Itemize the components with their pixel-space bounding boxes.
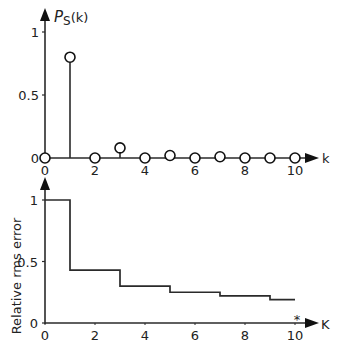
y-tick-label: 0.5 (18, 88, 39, 103)
y-tick-label: 0 (30, 316, 38, 331)
x-tick-label: 2 (91, 328, 99, 343)
stem-marker (265, 153, 275, 163)
stem-marker (190, 153, 200, 163)
x-tick-label: 0 (41, 328, 49, 343)
x-tick-label: 10 (287, 328, 304, 343)
y-tick-label: 1 (30, 193, 38, 208)
stem-marker (240, 153, 250, 163)
bottom-step-plot: 00.510246810Relative rms error*K (9, 177, 330, 343)
x-tick-label: 10 (287, 163, 304, 178)
x-tick-label: 4 (141, 328, 149, 343)
y-tick-label: 1 (31, 25, 39, 40)
x-tick-label: 8 (241, 328, 249, 343)
top-stem-plot: 00.510246810PS(k)k (18, 8, 330, 178)
y-axis-label: PS(k) (54, 8, 88, 28)
x-tick-label: 4 (141, 163, 149, 178)
y-axis-label: Relative rms error (9, 217, 24, 334)
stem-marker (165, 150, 175, 160)
x-tick-label: 6 (191, 328, 199, 343)
stem-marker (65, 52, 75, 62)
stem-marker (140, 153, 150, 163)
stem-marker (215, 152, 225, 162)
chart-canvas: 00.510246810PS(k)k 00.510246810Relative … (0, 0, 340, 356)
y-axis-arrow-icon (40, 8, 50, 21)
x-axis-label: k (322, 151, 330, 166)
x-tick-label: 8 (241, 163, 249, 178)
x-asterisk-marker: * (294, 312, 301, 327)
x-axis-arrow-icon (305, 153, 319, 163)
stem-marker (290, 153, 300, 163)
y-tick-label: 0 (31, 151, 39, 166)
stem-marker (115, 143, 125, 153)
x-tick-label: 0 (41, 163, 49, 178)
y-axis-arrow-icon (40, 177, 50, 190)
x-tick-label: 6 (191, 163, 199, 178)
stem-marker (90, 153, 100, 163)
stem-marker (40, 153, 50, 163)
x-axis-arrow-icon (305, 318, 319, 328)
step-line (45, 200, 295, 300)
x-axis-label: K (321, 317, 330, 332)
x-tick-label: 2 (91, 163, 99, 178)
